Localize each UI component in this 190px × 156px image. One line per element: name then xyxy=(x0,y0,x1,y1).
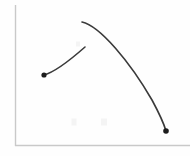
chart-background xyxy=(0,0,190,156)
right-curve-end-dot xyxy=(163,128,169,134)
left-curve-start-dot xyxy=(41,72,46,77)
faint-smudge-lower-right-icon xyxy=(101,119,107,126)
chart-canvas xyxy=(0,0,190,156)
faint-smudge-upper-icon xyxy=(76,42,80,47)
faint-smudge-lower-left-icon xyxy=(72,119,77,126)
chart-figure xyxy=(0,0,190,156)
